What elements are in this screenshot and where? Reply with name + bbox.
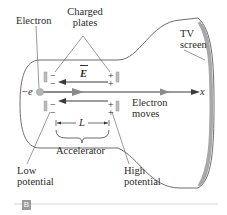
left-plate-top-sign: −− [50,70,56,89]
left-plate-top [44,72,47,82]
panel-tag: B [22,200,31,210]
vector-bar [80,65,88,66]
accelerator-brace [56,130,109,143]
electron-moves-label: Electron moves [132,97,168,119]
electron-label: Electron [16,15,52,26]
charge-label: −e [21,86,33,97]
left-plate-bottom [44,101,47,111]
right-plate-bottom-sign: ++ [108,99,114,118]
x-axis-label: x [200,86,205,97]
field-arrow-bottom [58,98,66,104]
left-plate-bottom-sign: −− [50,99,56,118]
right-plate-bottom [116,101,119,111]
electron [36,88,43,95]
low-potential-label: Low potential [17,165,54,187]
accelerator-label: Accelerator [56,145,105,156]
field-label: E [80,68,87,79]
tv-screen-label: TV screen [180,28,207,50]
length-label: L [79,117,85,128]
right-plate-top [116,72,119,82]
field-arrow-top [58,79,66,85]
electron-motion-arrow [72,88,84,96]
charged-plates-label: Charged plates [63,6,107,28]
high-potential-label: High potential [124,165,161,187]
right-plate-top-sign: ++ [108,70,114,89]
